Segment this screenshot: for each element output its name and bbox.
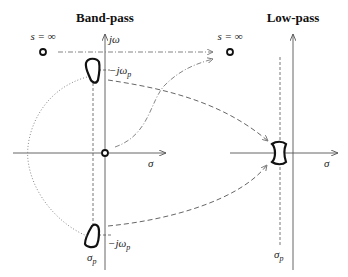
band-pass-plane: Band-pass jω σ s = ∞ −jωp −jωp σp (13, 10, 166, 270)
dotted-mapping-curve (28, 77, 87, 236)
band-to-lowpass-transform-diagram: Band-pass jω σ s = ∞ −jωp −jωp σp Low-pa… (0, 0, 348, 277)
jw-axis-label: jω (107, 33, 120, 45)
sigma-p-label-bp: σp (87, 251, 96, 266)
infinity-point-left (40, 49, 46, 55)
lower-jwp-label: −jωp (108, 237, 130, 252)
origin-point (102, 150, 108, 156)
lower-passband-region (85, 225, 99, 247)
upper-to-lowpass-curve (108, 80, 268, 141)
infinity-label-left: s = ∞ (30, 30, 55, 42)
infinity-point-right (227, 49, 233, 55)
upper-passband-region (86, 59, 100, 83)
lowpass-region (272, 142, 286, 165)
lower-to-lowpass-curve (108, 165, 267, 226)
low-pass-plane: Low-pass σ s = ∞ σp (217, 10, 338, 270)
band-pass-title: Band-pass (76, 10, 134, 25)
sigma-p-label-lp: σp (274, 248, 283, 263)
low-pass-title: Low-pass (267, 10, 320, 25)
sigma-axis-label: σ (148, 157, 154, 169)
upper-jwp-label: −jωp (109, 64, 131, 79)
infinity-label-right: s = ∞ (217, 30, 242, 42)
lp-sigma-axis-label: σ (324, 157, 330, 169)
